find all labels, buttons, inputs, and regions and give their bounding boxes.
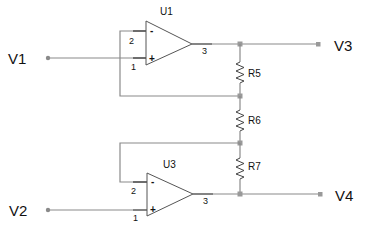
opamp-u3-pin2: 2 bbox=[131, 186, 136, 196]
circuit-schematic: V1 U1 - + 2 1 3 V3 R5 R6 R7 V2 U3 - + 2 bbox=[0, 0, 368, 231]
opamp-u1-pin1: 1 bbox=[131, 62, 136, 72]
resistor-r7-label: R7 bbox=[248, 161, 261, 172]
opamp-u3-label: U3 bbox=[163, 159, 176, 170]
opamp-u3-plus-sign: + bbox=[150, 204, 156, 215]
resistor-r7[interactable] bbox=[236, 158, 244, 179]
opamp-u3-pin3: 3 bbox=[203, 196, 208, 206]
terminal-label-v1: V1 bbox=[8, 50, 26, 67]
opamp-u3-pin1: 1 bbox=[133, 213, 138, 223]
resistor-r6[interactable] bbox=[236, 110, 244, 131]
opamp-u1-label: U1 bbox=[160, 6, 173, 17]
terminal-dot-v3[interactable] bbox=[316, 42, 321, 47]
resistor-r5[interactable] bbox=[236, 62, 244, 83]
terminal-dot-v1[interactable] bbox=[46, 56, 50, 60]
terminal-label-v3: V3 bbox=[334, 37, 352, 54]
terminal-label-v4: V4 bbox=[335, 187, 353, 204]
wire-u3-feedback bbox=[120, 143, 240, 182]
opamp-u1-plus-sign: + bbox=[149, 53, 155, 64]
resistor-r5-label: R5 bbox=[248, 68, 261, 79]
opamp-u1-pin2: 2 bbox=[129, 36, 134, 46]
terminal-dot-v2[interactable] bbox=[46, 208, 50, 212]
terminal-label-v2: V2 bbox=[9, 202, 27, 219]
opamp-u1-minus-sign: - bbox=[150, 25, 153, 36]
opamp-u3-minus-sign: - bbox=[151, 176, 154, 187]
node-v4 bbox=[238, 192, 243, 197]
resistor-r6-label: R6 bbox=[248, 115, 261, 126]
terminal-dot-v4[interactable] bbox=[318, 192, 323, 197]
opamp-u1-pin3: 3 bbox=[202, 46, 207, 56]
